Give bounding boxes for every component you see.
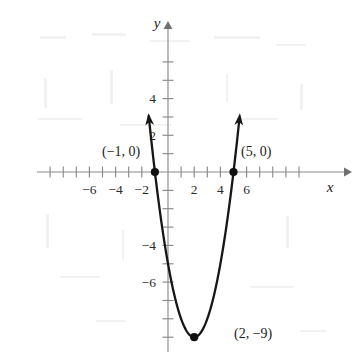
y-axis-arrowhead bbox=[164, 21, 173, 29]
point-dot-vertex bbox=[190, 333, 198, 341]
coordinate-plane-svg: −6 −4 −2 2 4 6 x bbox=[0, 0, 360, 360]
point-dot-right-root bbox=[229, 168, 237, 176]
label-right-root: (5, 0) bbox=[241, 144, 272, 160]
parabola-curve-precise bbox=[149, 116, 240, 337]
parabola-curve-group bbox=[145, 113, 243, 337]
scan-artifact-group bbox=[38, 33, 326, 332]
x-tick-label-pos2: 2 bbox=[191, 182, 198, 197]
y-tick-label-pos4: 4 bbox=[149, 91, 156, 106]
y-tick-label-neg4: −4 bbox=[142, 238, 157, 253]
y-axis-label: y bbox=[152, 15, 161, 31]
x-tick-label-neg6: −6 bbox=[82, 182, 97, 197]
x-tick-label-pos6: 6 bbox=[243, 182, 250, 197]
x-axis-label: x bbox=[326, 179, 334, 195]
label-left-root: (−1, 0) bbox=[102, 144, 141, 160]
y-tick-label-neg6: −6 bbox=[142, 275, 157, 290]
x-axis-arrowhead bbox=[344, 168, 352, 177]
parabola-figure: −6 −4 −2 2 4 6 x bbox=[0, 0, 360, 360]
x-tick-label-neg4: −4 bbox=[108, 182, 123, 197]
point-dot-left-root bbox=[151, 168, 159, 176]
x-axis: −6 −4 −2 2 4 6 x bbox=[37, 167, 352, 198]
x-tick-label-neg2: −2 bbox=[135, 182, 149, 197]
x-tick-label-pos4: 4 bbox=[217, 182, 224, 197]
label-vertex: (2, −9) bbox=[234, 326, 273, 342]
